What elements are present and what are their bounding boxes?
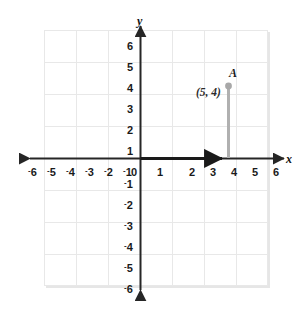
point-label-A: A	[229, 66, 237, 81]
y-tick-label: -5	[124, 262, 133, 274]
x-tick-label: -4	[66, 166, 75, 178]
y-tick-label: 6	[127, 40, 133, 52]
x-tick-label: -2	[104, 166, 113, 178]
y-tick-label: -2	[124, 199, 133, 211]
x-tick-label: -3	[85, 166, 94, 178]
y-tick-label: 2	[127, 124, 133, 136]
x-tick-label: 3	[210, 166, 216, 178]
coordinate-plane-figure: -6 -5 -4 -3 -2 -1 0 1 2 3 4 5 6 6 5 4 3 …	[0, 0, 300, 314]
y-tick-label: -6	[124, 283, 133, 295]
x-tick-label: 1	[157, 166, 163, 178]
x-tick-label: -5	[47, 166, 56, 178]
point-marker-A	[225, 83, 232, 90]
y-tick-label: 3	[127, 103, 133, 115]
x-tick-label: 5	[252, 166, 258, 178]
y-tick-label: 4	[127, 82, 133, 94]
point-coordinate-label: (5, 4)	[196, 86, 221, 98]
x-tick-label: 4	[231, 166, 237, 178]
y-tick-label: 1	[127, 145, 133, 157]
y-tick-label: -1	[124, 178, 133, 190]
y-axis-label: y	[137, 14, 142, 29]
x-tick-label: 2	[189, 166, 195, 178]
y-tick-label: -3	[124, 220, 133, 232]
x-tick-label-origin: 0	[131, 166, 137, 178]
y-tick-label: 5	[127, 61, 133, 73]
y-tick-label: -4	[124, 241, 133, 253]
x-tick-label: -6	[28, 166, 37, 178]
x-tick-label: 6	[273, 166, 279, 178]
axes-and-data-layer	[0, 0, 300, 314]
x-axis-label: x	[286, 152, 292, 167]
